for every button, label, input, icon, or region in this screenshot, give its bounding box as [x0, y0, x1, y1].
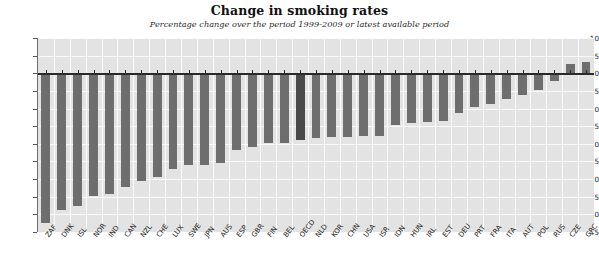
- bar: [296, 73, 305, 139]
- gridline-horizontal: [38, 38, 594, 39]
- x-axis-tick-mark: [443, 70, 444, 73]
- y-axis-tick-mark: [33, 38, 37, 39]
- x-axis-tick-mark: [507, 70, 508, 73]
- gridline-vertical: [356, 38, 357, 232]
- x-axis-tick-mark: [237, 70, 238, 73]
- bar: [137, 73, 146, 181]
- y-axis-tick-mark: [33, 73, 37, 74]
- gridline-vertical: [308, 38, 309, 232]
- x-axis-tick-mark: [570, 70, 571, 73]
- bar: [73, 73, 82, 205]
- bar: [169, 73, 178, 169]
- x-axis-tick-mark: [491, 70, 492, 73]
- gridline-vertical: [499, 38, 500, 232]
- x-axis-tick-mark: [205, 70, 206, 73]
- bar: [470, 73, 479, 107]
- x-axis-tick-mark: [411, 70, 412, 73]
- bar: [200, 73, 209, 165]
- x-axis-tick-mark: [427, 70, 428, 73]
- x-axis-tick-mark: [475, 70, 476, 73]
- gridline-vertical: [245, 38, 246, 232]
- gridline-vertical: [451, 38, 452, 232]
- gridline-vertical: [419, 38, 420, 232]
- bar: [41, 73, 50, 223]
- x-axis-tick-mark: [538, 70, 539, 73]
- bar: [121, 73, 130, 187]
- gridline-vertical: [229, 38, 230, 232]
- x-axis-tick-mark: [221, 70, 222, 73]
- zero-baseline: [38, 73, 594, 74]
- gridline-vertical: [546, 38, 547, 232]
- chart-title: Change in smoking rates: [0, 3, 599, 18]
- y-axis-tick-mark: [33, 161, 37, 162]
- gridline-vertical: [435, 38, 436, 232]
- gridline-vertical: [515, 38, 516, 232]
- x-axis-tick-mark: [554, 70, 555, 73]
- bar: [407, 73, 416, 123]
- bar: [105, 73, 114, 194]
- y-axis-tick-mark: [33, 179, 37, 180]
- gridline-vertical: [562, 38, 563, 232]
- x-axis-tick-mark: [395, 70, 396, 73]
- gridline-vertical: [578, 38, 579, 232]
- x-axis-tick-mark: [586, 70, 587, 73]
- bar: [184, 73, 193, 165]
- bar: [280, 73, 289, 142]
- gridline-vertical: [70, 38, 71, 232]
- plot-area: [38, 38, 594, 232]
- bar: [375, 73, 384, 135]
- x-axis-tick-mark: [332, 70, 333, 73]
- x-axis-tick-mark: [125, 70, 126, 73]
- gridline-vertical: [260, 38, 261, 232]
- gridline-vertical: [165, 38, 166, 232]
- gridline-horizontal: [38, 56, 594, 57]
- x-axis-tick-mark: [459, 70, 460, 73]
- gridline-vertical: [483, 38, 484, 232]
- bar: [486, 73, 495, 103]
- gridline-horizontal: [38, 214, 594, 215]
- y-axis-tick-mark: [33, 56, 37, 57]
- bar: [232, 73, 241, 150]
- x-axis-tick-mark: [173, 70, 174, 73]
- bar: [89, 73, 98, 195]
- x-axis-tick-mark: [380, 70, 381, 73]
- gridline-vertical: [340, 38, 341, 232]
- x-axis-tick-mark: [268, 70, 269, 73]
- x-axis-tick-mark: [348, 70, 349, 73]
- y-axis-tick-mark: [33, 214, 37, 215]
- bar: [518, 73, 527, 95]
- gridline-vertical: [133, 38, 134, 232]
- bar: [502, 73, 511, 99]
- y-axis-tick-mark: [33, 232, 37, 233]
- y-axis-tick-mark: [33, 197, 37, 198]
- bar: [327, 73, 336, 137]
- bar: [359, 73, 368, 136]
- x-axis-tick-mark: [157, 70, 158, 73]
- x-axis-tick-mark: [284, 70, 285, 73]
- bar: [248, 73, 257, 147]
- gridline-vertical: [324, 38, 325, 232]
- bar: [343, 73, 352, 136]
- bar: [216, 73, 225, 162]
- gridline-vertical: [181, 38, 182, 232]
- gridline-vertical: [197, 38, 198, 232]
- x-axis-tick-mark: [62, 70, 63, 73]
- x-axis-tick-mark: [316, 70, 317, 73]
- bar: [439, 73, 448, 121]
- x-axis-tick-mark: [78, 70, 79, 73]
- x-axis-tick-mark: [94, 70, 95, 73]
- gridline-vertical: [117, 38, 118, 232]
- gridline-vertical: [276, 38, 277, 232]
- bar: [423, 73, 432, 122]
- y-axis-tick-mark: [33, 91, 37, 92]
- bar: [534, 73, 543, 90]
- gridline-horizontal: [38, 197, 594, 198]
- gridline-vertical: [292, 38, 293, 232]
- gridline-vertical: [54, 38, 55, 232]
- bar: [153, 73, 162, 177]
- x-axis-tick-mark: [189, 70, 190, 73]
- chart-subtitle: Percentage change over the period 1999-2…: [0, 19, 599, 29]
- gridline-vertical: [372, 38, 373, 232]
- gridline-vertical: [102, 38, 103, 232]
- gridline-vertical: [530, 38, 531, 232]
